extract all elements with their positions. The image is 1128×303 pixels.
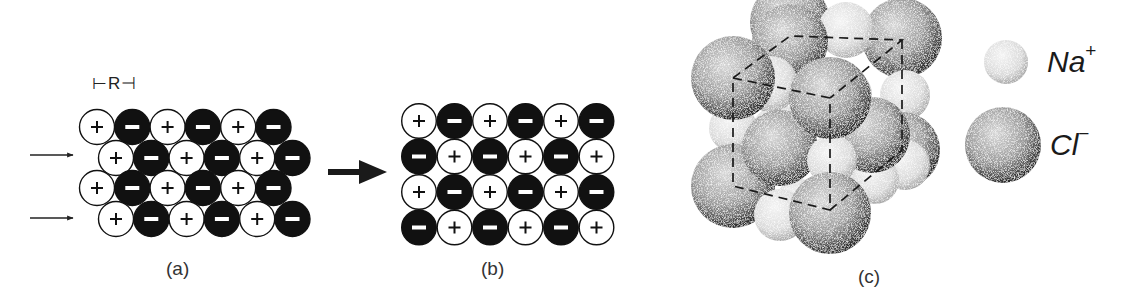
cation-ion [221,171,256,206]
cation-ion [544,175,579,210]
panel-a-sheared-crystal [80,110,311,237]
minus-icon [267,186,281,190]
cation-ion [508,210,543,245]
cation-ion [169,202,204,237]
anion-ion [115,110,150,145]
transition-arrow-icon [328,160,387,184]
anion-ion [508,104,543,139]
cation-ion [402,175,437,210]
caption-c: (c) [858,266,880,288]
minus-icon [125,186,139,190]
cation-ion [169,141,204,176]
minus-icon [554,226,568,230]
cation-ion [579,139,614,174]
cation-ion [99,202,134,237]
minus-icon [448,119,462,123]
minus-icon [215,217,229,221]
minus-icon [519,190,533,194]
cation-ion [473,104,508,139]
minus-icon [554,155,568,159]
minus-icon [412,226,426,230]
minus-icon [286,156,300,160]
minus-icon [590,190,604,194]
anion-ion [256,110,291,145]
legend-na-label: Na+ [1047,44,1096,79]
legend-cl-sphere [965,107,1041,183]
minus-icon [590,119,604,123]
panel-b-aligned-crystal [402,104,614,245]
cation-ion [544,104,579,139]
cation-ion [221,110,256,145]
minus-icon [196,125,210,129]
cation-ion [402,104,437,139]
anion-ion [579,175,614,210]
cation-ion [80,110,115,145]
legend-na-ion: Na [1047,45,1085,78]
anion-ion [437,104,472,139]
minus-icon [483,155,497,159]
minus-icon [144,217,158,221]
minus-icon [412,155,426,159]
caption-a: (a) [166,258,189,280]
minus-icon [267,125,281,129]
cation-ion [240,141,275,176]
legend-na-sphere [984,40,1028,84]
anion-ion [275,141,310,176]
anion-ion [473,139,508,174]
anion-ion [473,210,508,245]
cation-ion [240,202,275,237]
legend-na-charge: + [1085,40,1096,61]
panel-c-nacl-unit-cell [691,0,942,254]
legend-cl-charge: − [1078,123,1089,144]
anion-ion [437,175,472,210]
cation-ion [150,110,185,145]
anion-ion [204,141,239,176]
minus-icon [144,156,158,160]
cation-ion [99,141,134,176]
anion-ion [204,202,239,237]
spacing-label-r: ⊢R⊣ [92,73,137,94]
minus-icon [448,190,462,194]
cation-ion [150,171,185,206]
legend-cl-ion: Cl [1050,128,1078,161]
caption-b: (b) [481,258,504,280]
anion-ion [256,171,291,206]
cation-ion [473,175,508,210]
anion-ion [579,104,614,139]
ionic-crystal-figure: ⊢R⊣ Na+ Cl− (a) (b) (c) [0,0,1128,303]
anion-ion [134,202,169,237]
legend-cl-label: Cl− [1050,127,1089,162]
anion-ion [115,171,150,206]
minus-icon [483,226,497,230]
cation-ion [508,139,543,174]
anion-ion [185,171,220,206]
legend-spheres [965,40,1041,183]
cation-ion [80,171,115,206]
cation-ion [437,210,472,245]
cation-ion [437,139,472,174]
cation-ion [579,210,614,245]
minus-icon [519,119,533,123]
anion-ion [134,141,169,176]
minus-icon [215,156,229,160]
anion-ion [402,139,437,174]
anion-ion [185,110,220,145]
anion-ion [544,210,579,245]
minus-icon [286,217,300,221]
anion-ion [544,139,579,174]
anion-ion [402,210,437,245]
minus-icon [196,186,210,190]
anion-ion [508,175,543,210]
anion-ion [275,202,310,237]
minus-icon [125,125,139,129]
